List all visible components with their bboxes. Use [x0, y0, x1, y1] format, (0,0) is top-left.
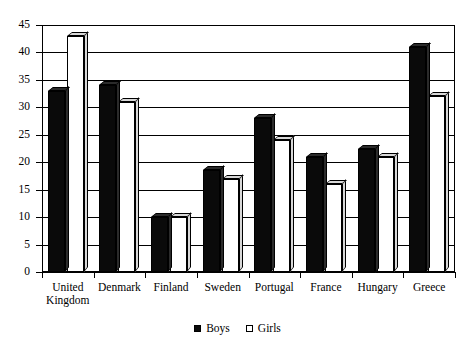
y-tick-mark — [36, 162, 42, 163]
bar-face — [428, 96, 445, 272]
open-square-icon — [246, 325, 253, 332]
bar-boys — [48, 91, 65, 272]
y-tick-label: 30 — [4, 101, 30, 113]
bar-face — [325, 184, 342, 272]
bar-boys — [358, 149, 375, 273]
bar-face — [48, 91, 65, 272]
bar-side — [323, 152, 327, 272]
bar-side — [426, 42, 430, 272]
x-tick-mark — [145, 272, 146, 278]
bar-boys — [306, 157, 323, 272]
bar-girls — [170, 217, 187, 272]
bar-face — [273, 140, 290, 272]
bar-side — [394, 152, 398, 272]
y-tick-label: 40 — [4, 46, 30, 58]
bar-side — [187, 212, 191, 272]
bar-side — [445, 91, 449, 272]
x-tick-mark — [455, 272, 456, 278]
bar-boys — [151, 217, 168, 272]
x-tick-mark — [300, 272, 301, 278]
x-tick-mark — [352, 272, 353, 278]
x-tick-mark — [42, 272, 43, 278]
bar-side — [84, 31, 88, 272]
x-tick-mark — [197, 272, 198, 278]
y-tick-label: 0 — [4, 266, 30, 278]
bar-face — [67, 36, 84, 272]
bar-girls — [377, 157, 394, 272]
y-tick-label: 45 — [4, 19, 30, 31]
chart-legend: BoysGirls — [0, 322, 475, 334]
bar-face — [203, 170, 220, 272]
y-tick-mark — [36, 52, 42, 53]
bar-side — [220, 165, 224, 272]
bar-boys — [254, 118, 271, 272]
bar-boys — [203, 170, 220, 272]
bar-side — [239, 174, 243, 272]
bar-face — [222, 179, 239, 272]
legend-item-boys: Boys — [194, 322, 230, 334]
bar-face — [358, 149, 375, 273]
bar-face — [254, 118, 271, 272]
y-tick-mark — [36, 107, 42, 108]
y-tick-mark — [36, 135, 42, 136]
bar-girls — [273, 140, 290, 272]
bar-side — [65, 86, 69, 272]
bar-girls — [222, 179, 239, 272]
bar-face — [99, 85, 116, 272]
x-tick-mark — [94, 272, 95, 278]
x-tick-label: Greece — [399, 281, 459, 294]
legend-item-girls: Girls — [246, 322, 281, 334]
y-tick-label: 5 — [4, 239, 30, 251]
y-tick-mark — [36, 190, 42, 191]
bar-boys — [409, 47, 426, 272]
bar-side — [116, 80, 120, 272]
bar-boys — [99, 85, 116, 272]
x-tick-mark — [403, 272, 404, 278]
bar-face — [306, 157, 323, 272]
bar-girls — [325, 184, 342, 272]
y-tick-mark — [36, 245, 42, 246]
y-tick-mark — [36, 25, 42, 26]
bar-face — [118, 102, 135, 272]
bar-side — [168, 212, 172, 272]
legend-label: Girls — [258, 322, 281, 334]
bar-side — [135, 97, 139, 272]
y-tick-mark — [36, 80, 42, 81]
y-tick-label: 25 — [4, 129, 30, 141]
bar-face — [377, 157, 394, 272]
bar-face — [170, 217, 187, 272]
bar-chart: 051015202530354045 United KingdomDenmark… — [0, 0, 475, 352]
bar-side — [271, 113, 275, 272]
bar-face — [151, 217, 168, 272]
y-tick-label: 35 — [4, 74, 30, 86]
legend-label: Boys — [206, 322, 230, 334]
y-axis-spine — [42, 25, 43, 272]
bar-side — [375, 143, 379, 272]
y-tick-label: 20 — [4, 156, 30, 168]
gridline — [42, 52, 455, 53]
y-tick-mark — [36, 217, 42, 218]
filled-square-icon — [194, 325, 201, 332]
y-tick-label: 10 — [4, 211, 30, 223]
bar-side — [290, 135, 294, 272]
bar-face — [409, 47, 426, 272]
bar-girls — [118, 102, 135, 272]
bar-girls — [67, 36, 84, 272]
gridline — [42, 25, 455, 26]
y-tick-label: 15 — [4, 184, 30, 196]
bar-girls — [428, 96, 445, 272]
x-tick-mark — [249, 272, 250, 278]
bar-side — [342, 179, 346, 272]
